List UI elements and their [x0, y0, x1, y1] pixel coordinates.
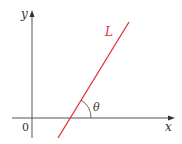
x-axis: [12, 116, 175, 121]
angle-label: θ: [93, 101, 100, 114]
angle-arc: [81, 100, 91, 118]
y-axis-arrow-icon: [30, 10, 35, 17]
origin-label: 0: [22, 121, 29, 134]
x-axis-label: x: [165, 120, 172, 134]
y-axis-label: y: [20, 7, 28, 21]
line-label: L: [104, 25, 113, 39]
line-L: [58, 22, 129, 138]
diagram-canvas: y x 0 L θ: [0, 0, 182, 144]
y-axis: [30, 10, 35, 138]
